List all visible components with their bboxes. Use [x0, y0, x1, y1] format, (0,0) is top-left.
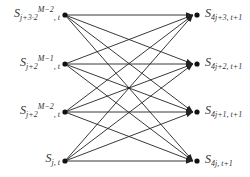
left-node-label: Sj, t [46, 152, 60, 167]
node-L0 [62, 12, 67, 17]
right-node-label: S4j+3, t+1 [205, 7, 242, 22]
left-node-label: Sj+2M−2, t [20, 103, 60, 119]
node-R0 [194, 12, 199, 17]
node-L2 [62, 109, 67, 114]
right-node-label: S4j, t+1 [205, 153, 233, 168]
right-node-label: S4j+2, t+1 [205, 56, 242, 71]
node-R1 [194, 61, 199, 66]
edges [65, 15, 193, 161]
butterfly-diagram [0, 0, 250, 177]
node-L3 [62, 158, 67, 163]
left-node-label: Sj+2M−1, t [20, 55, 60, 71]
node-R3 [194, 158, 199, 163]
node-R2 [194, 109, 199, 114]
left-node-label: Sj+3·2M−2, t [14, 6, 60, 22]
node-L1 [62, 61, 67, 66]
right-node-label: S4j+1, t+1 [205, 104, 242, 119]
